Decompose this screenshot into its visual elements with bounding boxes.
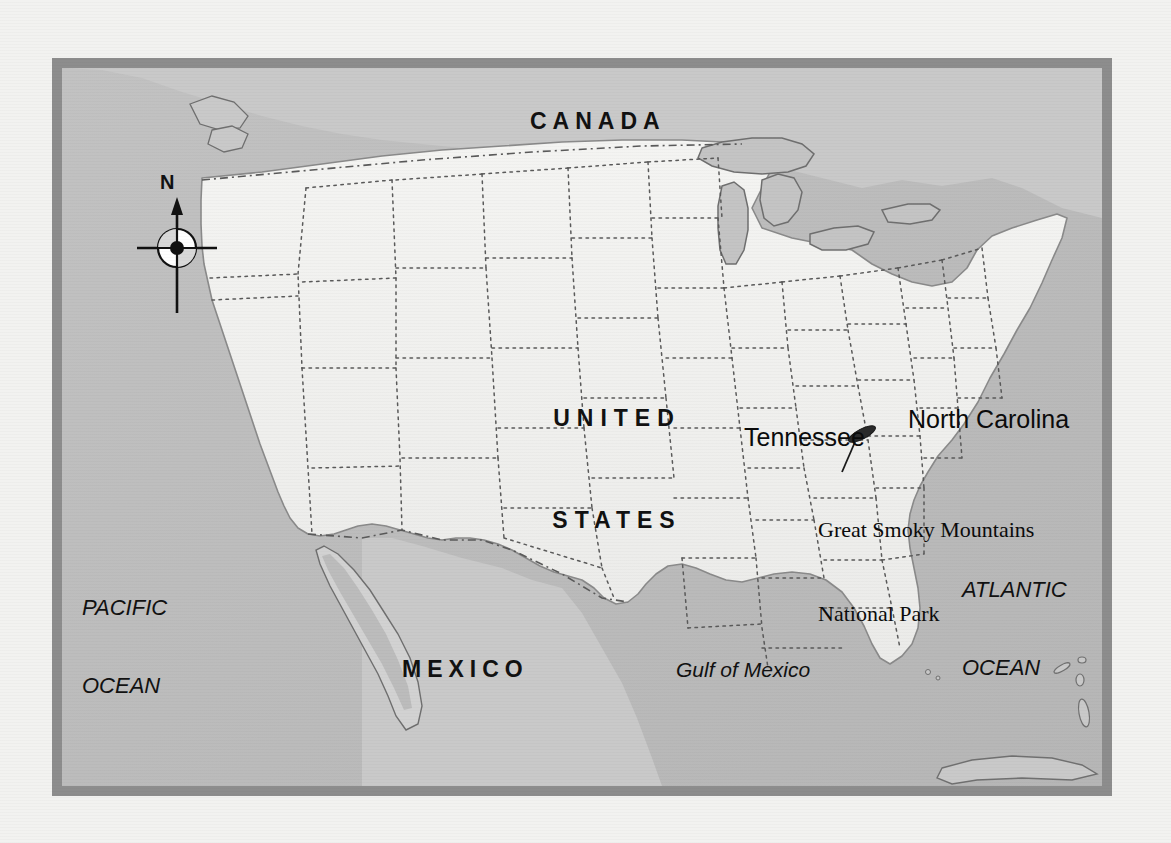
compass-north-label: N	[160, 171, 174, 194]
lake-michigan	[718, 182, 748, 264]
scale-miles-zero: 0	[132, 783, 144, 796]
map-frame: CANADA UNITED STATES MEXICO PACIFIC OCEA…	[52, 58, 1112, 796]
scale-miles-value: 500 miles	[296, 783, 386, 796]
compass-graphic	[132, 173, 222, 323]
scale-bar: 0 500 miles 0 800 kilometers	[132, 783, 462, 796]
compass-rose: N	[132, 173, 222, 323]
